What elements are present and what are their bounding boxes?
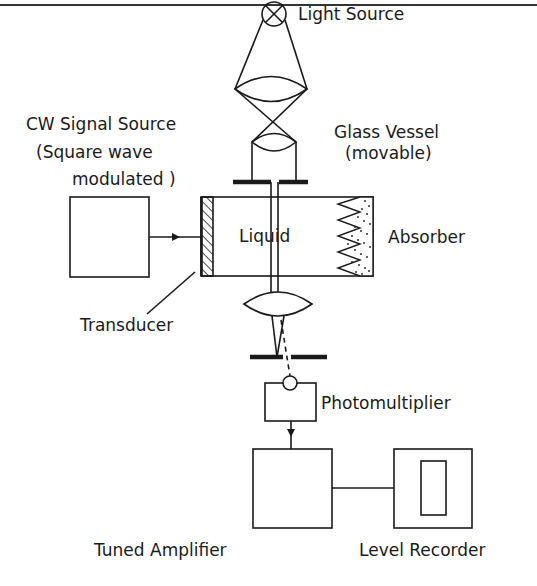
label-absorber: Absorber [388,227,465,247]
cw-signal-source-box [70,197,149,277]
label-glass-vessel: Glass Vessel [334,122,439,142]
converging-rays [272,316,290,376]
apparatus-diagram: Light Source CW Signal Source (Square wa… [0,0,537,586]
label-transducer: Transducer [79,315,173,335]
label-level-recorder: Level Recorder [359,540,485,560]
label-cw-signal-source: CW Signal Source [26,114,176,134]
signal-arrow-icon [149,233,201,241]
pmt-output-arrow-icon [287,421,295,449]
transducer-leader [147,272,195,314]
level-recorder-display [421,461,446,515]
label-photomultiplier: Photomultiplier [321,393,451,413]
label-cw-signal-source-3: modulated ) [72,169,176,189]
transducer [202,197,213,276]
focusing-lens [244,292,312,316]
light-cone [235,20,307,89]
absorber [338,197,373,276]
label-liquid: Liquid [239,226,290,246]
label-light-source: Light Source [298,4,404,24]
label-tuned-amplifier: Tuned Amplifier [93,540,227,560]
label-cw-signal-source-2: (Square wave [36,142,153,162]
label-glass-vessel-2: (movable) [345,143,432,163]
tuned-amplifier-box [253,449,332,528]
photomultiplier-window [283,376,297,390]
